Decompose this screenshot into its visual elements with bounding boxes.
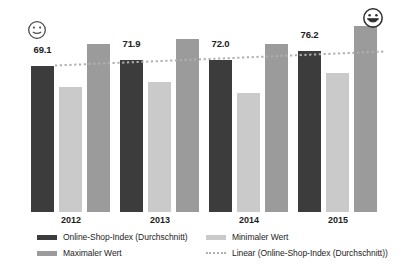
bar-avg-2014[interactable] [209,60,232,212]
legend-item-minimaler-wert[interactable]: Minimaler Wert [206,232,288,242]
online-shop-index-bar-chart: 69.1 71.9 72.0 76.2 2012 2013 2014 2015 [0,0,409,272]
bar-avg-2013[interactable] [120,60,143,212]
legend-swatch-maximaler-wert [37,251,57,256]
bar-avg-2012[interactable] [31,66,54,212]
bar-max-2012[interactable] [87,44,110,212]
category-axis: 2012 2013 2014 2015 [0,212,409,230]
legend-swatch-online-shop-index [37,235,57,240]
legend-label-maximaler-wert: Maximaler Wert [63,248,122,258]
bar-min-2013[interactable] [148,82,171,212]
legend-item-maximaler-wert[interactable]: Maximaler Wert [37,248,122,258]
data-label-avg-2013: 71.9 [110,38,153,49]
data-label-avg-2015: 76.2 [288,29,331,40]
category-tick-2013: 2013 [128,215,192,225]
bar-min-2012[interactable] [59,87,82,212]
smiley-neutral-icon [27,20,47,40]
bar-max-2015[interactable] [354,26,377,212]
bar-avg-2015[interactable] [298,51,321,212]
legend-item-linear-trendline[interactable]: Linear (Online-Shop-Index (Durchschnitt)… [206,248,388,258]
legend-label-online-shop-index: Online-Shop-Index (Durchschnitt) [63,232,188,242]
bar-max-2013[interactable] [176,39,199,212]
chart-legend: Online-Shop-Index (Durchschnitt) Minimal… [0,231,409,272]
smiley-happy-icon [362,7,384,29]
legend-label-linear-trendline: Linear (Online-Shop-Index (Durchschnitt)… [232,248,388,258]
legend-label-minimaler-wert: Minimaler Wert [232,232,288,242]
bar-max-2014[interactable] [265,44,288,212]
bar-min-2014[interactable] [237,93,260,212]
plot-area: 69.1 71.9 72.0 76.2 [0,0,409,212]
data-label-avg-2012: 69.1 [21,44,64,55]
data-label-avg-2014: 72.0 [199,38,242,49]
bar-min-2015[interactable] [326,73,349,212]
legend-swatch-minimaler-wert [206,235,226,240]
category-tick-2015: 2015 [306,215,370,225]
category-tick-2014: 2014 [217,215,281,225]
legend-item-online-shop-index[interactable]: Online-Shop-Index (Durchschnitt) [37,232,188,242]
legend-swatch-linear-trendline [206,252,226,254]
category-tick-2012: 2012 [39,215,103,225]
